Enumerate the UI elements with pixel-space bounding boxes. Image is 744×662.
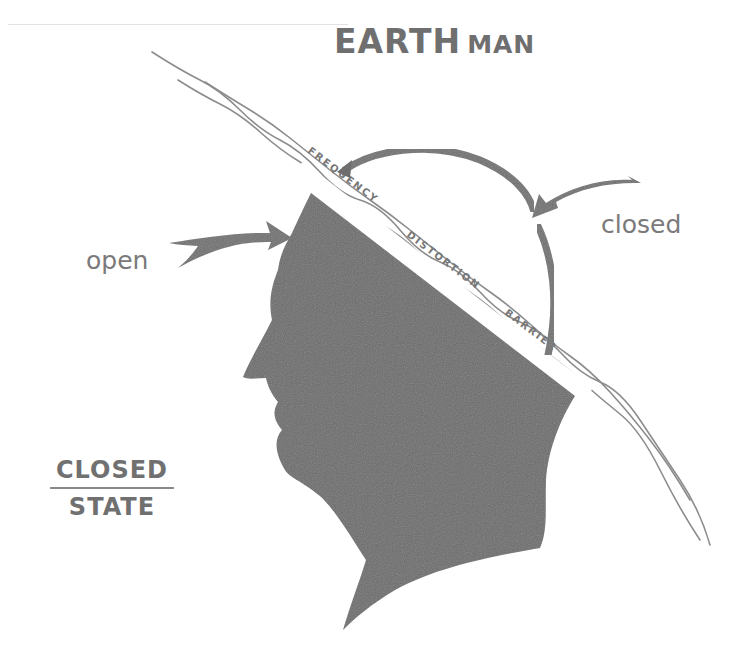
head-silhouette <box>243 193 575 630</box>
diagram-canvas: FREQUENCY DISTORTION BARRIER EARTHMAN op… <box>0 0 744 662</box>
diagram-graphic: FREQUENCY DISTORTION BARRIER <box>0 0 744 662</box>
state-label-top: CLOSED <box>50 456 174 489</box>
title-main: EARTH <box>334 22 461 61</box>
open-arrow-icon <box>169 221 292 268</box>
state-label-bottom: STATE <box>50 489 174 521</box>
closed-label: closed <box>601 210 681 239</box>
open-label: open <box>86 246 148 275</box>
page-title: EARTHMAN <box>334 22 535 61</box>
title-secondary: MAN <box>467 30 535 59</box>
state-label: CLOSED STATE <box>50 456 174 521</box>
